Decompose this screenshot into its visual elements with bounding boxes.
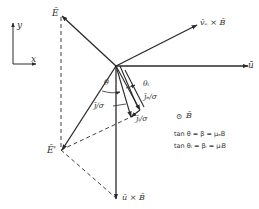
label-u-cross-B: ū × B̄ xyxy=(122,194,145,202)
label-E: Ē xyxy=(52,9,59,18)
field-out-of-page-icon: ⊙ xyxy=(176,113,182,121)
label-u: ū xyxy=(248,61,254,70)
label-j-over-sigma: j̄/σ xyxy=(94,102,104,110)
dashed-Eprime-to-uxB xyxy=(61,150,116,198)
main-vectors xyxy=(62,16,248,199)
label-je-over-sigma: j̄ₑ/σ xyxy=(144,93,157,101)
label-theta: θ xyxy=(104,79,109,87)
label-B-field: B̄ xyxy=(186,112,192,120)
vector-ve-cross-B xyxy=(116,25,197,66)
vector-E xyxy=(62,16,116,66)
label-ji-over-sigma: j̄ᵢ/σ xyxy=(136,115,147,123)
dashed-Eprime-to-ji xyxy=(61,116,133,150)
current-vectors xyxy=(116,66,144,117)
label-ve-cross-B: v̄ₑ × B̄ xyxy=(200,19,225,27)
equation-theta-i: tan θᵢ = βᵢ = μᵢB xyxy=(174,143,226,150)
vector-diagram xyxy=(0,0,259,209)
y-axis-label: y xyxy=(17,21,22,30)
label-theta-i: θᵢ xyxy=(143,80,149,88)
label-E-prime: Ē' xyxy=(47,146,56,155)
x-axis-label: x xyxy=(31,55,36,64)
equation-theta: tan θ = β = μₑB xyxy=(174,131,225,138)
theta-arc xyxy=(102,91,120,93)
j-label-leader xyxy=(113,104,126,106)
